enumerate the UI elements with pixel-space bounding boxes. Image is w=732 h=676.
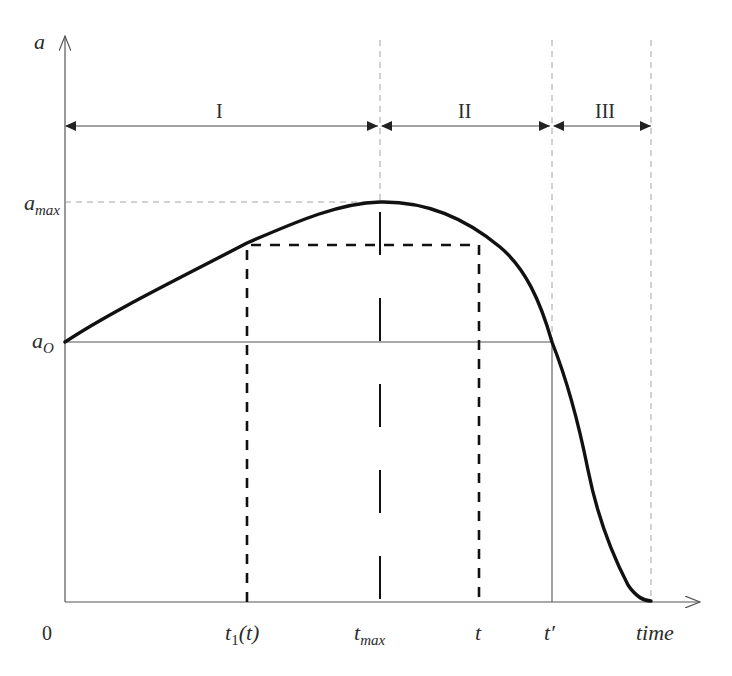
t-label: t [475,620,482,645]
t1-label: t1(t) [225,620,259,648]
averaging-window-rect [247,245,479,602]
region-I-label: I [216,100,223,122]
t-prime-label: t′ [544,620,556,645]
t-max-label: tmax [354,620,385,648]
x-axis-label: time [636,620,674,645]
origin-label: 0 [42,622,52,644]
a-max-label: amax [24,190,60,218]
a0-label: aO [32,328,54,356]
y-axis-label: a [34,29,45,54]
region-II-label: II [458,100,471,122]
region-III-label: III [595,100,615,122]
diagram-canvas: a amax aO I II III 0 t1(t) tmax t t′ tim… [0,0,732,676]
main-curve [65,202,651,601]
